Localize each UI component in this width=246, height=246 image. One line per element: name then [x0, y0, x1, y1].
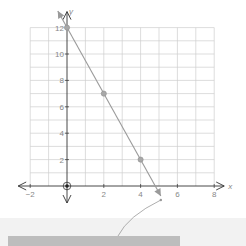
pointer-line [118, 200, 161, 236]
pointer-layer [0, 0, 246, 246]
pointer-dot [160, 199, 162, 201]
